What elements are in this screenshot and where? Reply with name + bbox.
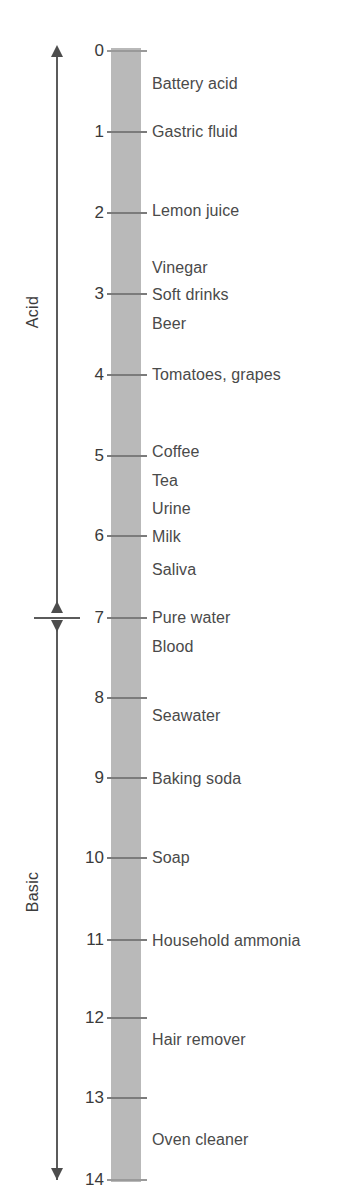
tick-number-ph-14: 14 [60,1171,104,1188]
substance-label: Lemon juice [152,203,239,219]
tick-mark-ph-3 [107,293,147,295]
tick-mark-ph-4 [107,374,147,376]
tick-mark-ph-13 [107,1097,147,1099]
ph-scale-bar [111,48,141,1182]
substance-label: Tomatoes, grapes [152,367,281,383]
tick-number-ph-5: 5 [60,447,104,464]
substance-label: Gastric fluid [152,124,238,140]
acid-axis-line [56,52,58,612]
tick-mark-ph-11 [107,939,147,941]
tick-mark-ph-7 [107,617,147,619]
tick-number-ph-13: 13 [60,1089,104,1106]
tick-number-ph-1: 1 [60,123,104,140]
tick-number-ph-2: 2 [60,204,104,221]
tick-mark-ph-0 [107,50,147,52]
tick-number-ph-4: 4 [60,366,104,383]
substance-label: Coffee [152,444,199,460]
tick-mark-ph-6 [107,535,147,537]
substance-label: Blood [152,639,193,655]
tick-number-ph-10: 10 [60,849,104,866]
tick-mark-ph-14 [107,1179,147,1181]
tick-mark-ph-10 [107,857,147,859]
tick-number-ph-3: 3 [60,285,104,302]
tick-mark-ph-1 [107,131,147,133]
substance-label: Vinegar [152,260,208,276]
tick-mark-ph-9 [107,777,147,779]
substance-label: Saliva [152,562,196,578]
substance-label: Baking soda [152,771,241,787]
substance-label: Tea [152,473,178,489]
tick-number-ph-7: 7 [60,609,104,626]
substance-label: Household ammonia [152,933,300,949]
substance-label: Pure water [152,610,230,626]
basic-axis-line [56,624,58,1180]
substance-label: Beer [152,316,186,332]
substance-label: Seawater [152,708,220,724]
tick-number-ph-6: 6 [60,527,104,544]
tick-mark-ph-5 [107,455,147,457]
substance-label: Oven cleaner [152,1132,248,1148]
substance-label: Urine [152,501,191,517]
region-label-acid: Acid [24,252,42,372]
tick-mark-ph-12 [107,1017,147,1019]
region-label-basic: Basic [24,832,42,952]
tick-number-ph-12: 12 [60,1009,104,1026]
tick-number-ph-9: 9 [60,769,104,786]
substance-label: Battery acid [152,76,238,92]
tick-number-ph-11: 11 [60,931,104,948]
substance-label: Soft drinks [152,287,229,303]
tick-number-ph-0: 0 [60,42,104,59]
tick-mark-ph-8 [107,697,147,699]
substance-label: Hair remover [152,1032,246,1048]
tick-number-ph-8: 8 [60,689,104,706]
ph-scale-diagram: Acid Basic 01234567891011121314 Battery … [0,0,361,1203]
tick-mark-ph-2 [107,212,147,214]
substance-label: Milk [152,529,181,545]
substance-label: Soap [152,850,190,866]
